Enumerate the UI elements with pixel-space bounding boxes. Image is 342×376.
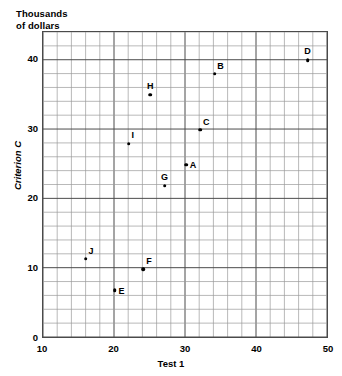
- y-tick-label-10: 10: [4, 263, 38, 273]
- data-point-h: [148, 93, 152, 97]
- x-tick-label-40: 40: [237, 344, 277, 354]
- data-point-a: [184, 163, 188, 167]
- data-point-c: [199, 128, 203, 132]
- data-point-label-f: F: [146, 257, 152, 266]
- x-tick-label-10: 10: [22, 344, 62, 354]
- data-point-g: [163, 184, 167, 188]
- y-tick-label-0: 0: [4, 333, 38, 343]
- x-tick-label-20: 20: [94, 344, 134, 354]
- plot-area: ABCDEFGHIJ: [42, 31, 328, 338]
- data-point-label-a: A: [190, 160, 197, 169]
- data-point-label-d: D: [304, 46, 311, 55]
- data-point-b: [213, 72, 217, 76]
- scatter-plot-figure: Thousands of dollars ABCDEFGHIJ 01020304…: [0, 0, 342, 376]
- y-tick-label-40: 40: [4, 54, 38, 64]
- data-point-i: [127, 142, 131, 146]
- y-axis-title: Criterion C: [12, 121, 23, 211]
- x-axis-title: Test 1: [0, 358, 342, 369]
- data-point-e: [113, 288, 117, 292]
- data-point-label-h: H: [147, 81, 154, 90]
- data-point-label-e: E: [118, 287, 124, 296]
- data-point-j: [84, 257, 88, 261]
- x-tick-label-30: 30: [165, 344, 205, 354]
- data-point-label-g: G: [161, 172, 168, 181]
- data-point-label-b: B: [217, 61, 224, 70]
- y-axis-title-text: Criterion C: [12, 141, 23, 190]
- data-points-layer: ABCDEFGHIJ: [43, 32, 327, 337]
- data-point-f: [141, 267, 145, 271]
- data-point-label-i: I: [132, 130, 135, 139]
- unit-caption: Thousands of dollars: [16, 8, 68, 31]
- data-point-d: [306, 58, 310, 62]
- x-tick-label-50: 50: [308, 344, 342, 354]
- data-point-label-j: J: [88, 246, 93, 255]
- data-point-label-c: C: [203, 117, 210, 126]
